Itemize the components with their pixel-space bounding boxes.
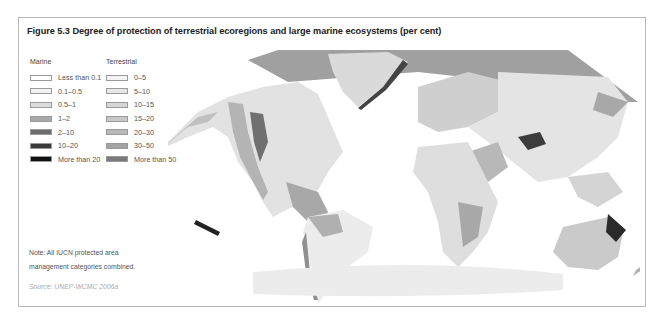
- legend-label: 10–20: [58, 141, 78, 150]
- legend-label: More than 20: [58, 155, 100, 164]
- legend-item: 10–15: [106, 98, 176, 112]
- legend-item: 2–10: [30, 125, 101, 139]
- legend-terrestrial: Terrestrial 0–5 5–10 10–15 15–20 20–30 3…: [106, 57, 176, 166]
- legend-item: 0–5: [106, 71, 176, 85]
- legend-swatch: [106, 102, 128, 108]
- legend-label: 2–10: [58, 128, 74, 137]
- greenland: [328, 52, 408, 107]
- new-zealand: [633, 262, 640, 276]
- legend-label: 20–30: [134, 128, 154, 137]
- legend-swatch: [106, 129, 128, 135]
- legend-label: Less than 0.1: [58, 73, 101, 82]
- legend-label: 0–5: [134, 73, 146, 82]
- legend-item: 5–10: [106, 85, 176, 99]
- legend-label: 5–10: [134, 87, 150, 96]
- legend-item: 0.1–0.5: [30, 85, 101, 99]
- legend-item: 30–50: [106, 139, 176, 153]
- antarctica: [253, 265, 563, 296]
- legend-label: 30–50: [134, 141, 154, 150]
- legend-item: More than 20: [30, 153, 101, 167]
- figure-note: Note: All IUCN protected area management…: [29, 246, 169, 274]
- legend-label: 0.5–1: [58, 100, 76, 109]
- figure-source: Source: UNEP-WCMC 2006a: [29, 283, 118, 290]
- legend-swatch: [30, 143, 52, 149]
- legend-swatch: [106, 116, 128, 122]
- legend-item: 20–30: [106, 125, 176, 139]
- legend-item: 1–2: [30, 112, 101, 126]
- legend-label: 0.1–0.5: [58, 87, 82, 96]
- legend-item: Less than 0.1: [30, 71, 101, 85]
- legend-swatch: [30, 129, 52, 135]
- note-line: management categories combined.: [29, 260, 169, 274]
- legend-marine-heading: Marine: [30, 57, 101, 66]
- legend-item: 0.5–1: [30, 98, 101, 112]
- legend-swatch: [106, 88, 128, 94]
- legend-swatch: [106, 75, 128, 81]
- legend-item: More than 50: [106, 153, 176, 167]
- legend-terrestrial-heading: Terrestrial: [106, 57, 176, 66]
- legend-swatch: [30, 116, 52, 122]
- legend-marine: Marine Less than 0.1 0.1–0.5 0.5–1 1–2 2…: [30, 57, 101, 166]
- legend-swatch: [30, 88, 52, 94]
- legend-swatch: [106, 143, 128, 149]
- hawaii-marine-reserve: [194, 220, 220, 236]
- southeast-asia: [568, 172, 623, 207]
- legend-item: 10–20: [30, 139, 101, 153]
- note-line: Note: All IUCN protected area: [29, 246, 169, 260]
- world-map: [168, 42, 640, 304]
- legend-label: 1–2: [58, 114, 70, 123]
- legend-label: 10–15: [134, 100, 154, 109]
- legend-swatch: [30, 75, 52, 81]
- legend-swatch: [30, 102, 52, 108]
- figure-title: Figure 5.3 Degree of protection of terre…: [27, 26, 441, 36]
- legend-swatch: [106, 156, 128, 162]
- legend-label: 15–20: [134, 114, 154, 123]
- legend-swatch: [30, 156, 52, 162]
- legend-item: 15–20: [106, 112, 176, 126]
